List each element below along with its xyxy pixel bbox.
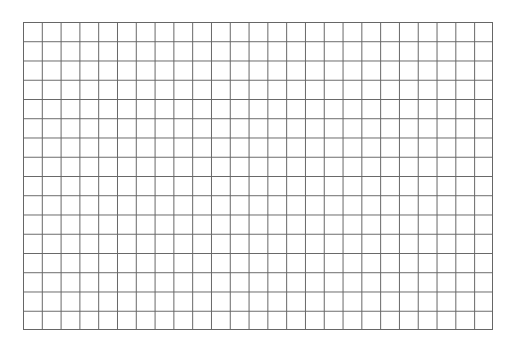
- blank-grid: [23, 22, 493, 330]
